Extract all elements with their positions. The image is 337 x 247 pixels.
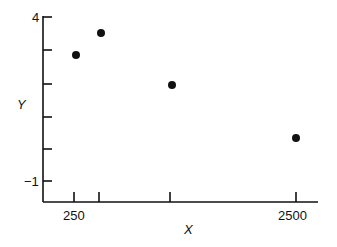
y-axis [43,16,52,202]
x-tick-label-left: 250 [63,209,85,222]
data-points [72,29,300,142]
x-tick-label-right: 2500 [278,209,307,222]
x-axis [43,192,318,202]
y-tick-label-bottom: −1 [24,175,39,188]
x-axis-title: X [184,222,193,237]
y-tick-label-top: 4 [32,11,39,24]
y-axis-title: Y [17,97,26,112]
